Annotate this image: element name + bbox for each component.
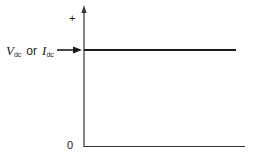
or-connector: or	[26, 44, 37, 58]
pointer-arrow-icon	[73, 47, 82, 54]
current-subscript: dc	[46, 51, 53, 58]
y-axis-plus-label: +	[69, 13, 75, 24]
signal-label: VdcorIdc	[6, 44, 54, 58]
voltage-subscript: dc	[14, 51, 21, 58]
origin-zero-label: 0	[67, 140, 73, 151]
voltage-symbol: V	[6, 43, 14, 58]
y-axis-arrow-icon	[82, 5, 87, 13]
dc-level-diagram	[0, 0, 253, 155]
